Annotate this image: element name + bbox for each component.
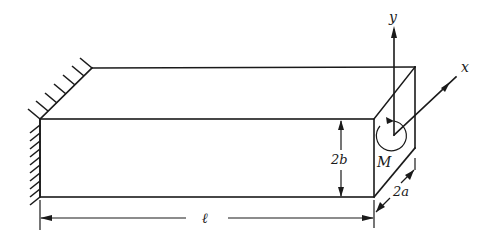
width-label: 2a: [392, 184, 409, 199]
moment-label: M: [376, 154, 392, 170]
y-arrow-icon: [391, 26, 397, 38]
moment-arrow-icon: [386, 117, 394, 124]
beam-body: [40, 67, 415, 197]
coordinate-axes: y x: [388, 9, 469, 135]
x-axis-label: x: [461, 59, 469, 75]
height-dimension: 2b: [330, 120, 348, 197]
moment: M: [376, 117, 406, 170]
beam-diagram: y x M 2b ℓ 2a: [0, 0, 495, 247]
height-label: 2b: [330, 152, 348, 167]
y-axis-label: y: [388, 9, 398, 25]
length-label: ℓ: [202, 210, 208, 226]
fixed-support: [28, 58, 92, 205]
length-dimension: ℓ: [40, 200, 374, 230]
